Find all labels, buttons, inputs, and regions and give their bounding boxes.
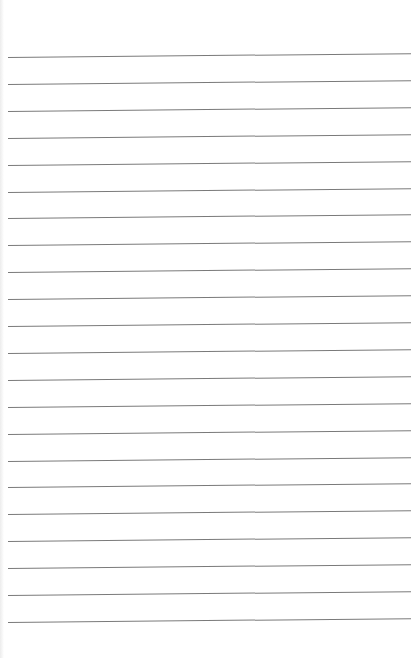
ruled-line (8, 591, 411, 596)
ruled-line (8, 107, 411, 112)
ruled-line (8, 241, 411, 246)
ruled-line (8, 510, 411, 515)
ruled-line (8, 134, 411, 139)
ruled-line (8, 484, 411, 489)
ruled-line (8, 457, 411, 462)
ruled-line (8, 295, 411, 300)
ruled-line (8, 322, 411, 327)
ruled-line (8, 53, 411, 58)
ruled-line (8, 403, 411, 408)
ruled-line (8, 618, 411, 623)
ruled-line (8, 537, 411, 542)
ruled-line (8, 188, 411, 193)
ruled-line (8, 376, 411, 381)
ruled-lines (0, 0, 418, 658)
ruled-line (8, 430, 411, 435)
ruled-line (8, 268, 411, 273)
ruled-line (8, 80, 411, 85)
ruled-line (8, 215, 411, 220)
ruled-line (8, 349, 411, 354)
ruled-line (8, 161, 411, 166)
ruled-line (8, 564, 411, 569)
